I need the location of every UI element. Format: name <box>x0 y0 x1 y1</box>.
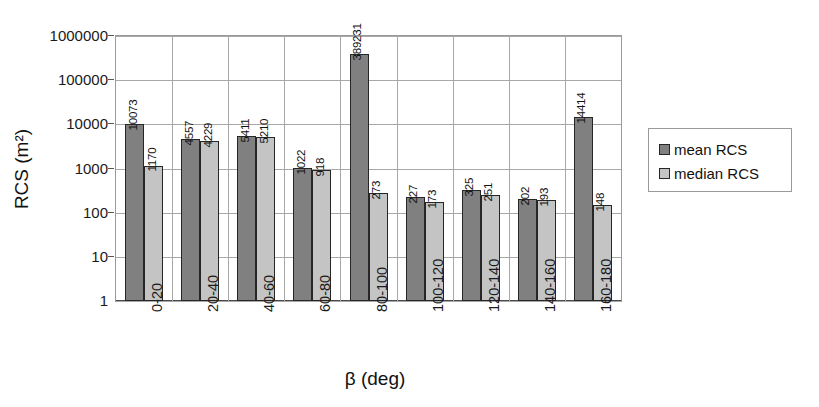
x-axis-tick-label: 20-40 <box>206 275 221 312</box>
legend-swatch-icon <box>659 168 670 179</box>
bar-value-label: 5411 <box>239 119 251 143</box>
y-axis-tick-label: 100 <box>83 204 108 219</box>
bar-median-0-20 <box>144 166 163 302</box>
legend-item: median RCS <box>659 161 791 185</box>
y-axis-tick-mark <box>108 212 114 213</box>
x-axis-tick-label: 60-80 <box>318 275 333 312</box>
y-axis-tick-label: 1000000 <box>50 28 108 43</box>
x-axis-tick-label: 140-160 <box>543 259 558 312</box>
x-axis-tick-label: 120-140 <box>487 259 502 312</box>
y-axis-tick-label: 10000 <box>66 116 108 131</box>
bar-value-label: 389231 <box>352 23 364 60</box>
y-axis-title: RCS (m²) <box>11 109 33 229</box>
gridline-vertical <box>172 36 173 301</box>
bar-value-label: 227 <box>408 185 420 204</box>
bar-value-label: 148 <box>595 193 607 212</box>
bar-value-label: 5210 <box>258 119 270 144</box>
bar-value-label: 173 <box>427 190 439 209</box>
gridline-vertical <box>453 36 454 301</box>
x-axis-tick-label: 40-60 <box>262 275 277 312</box>
bar-mean-0-20 <box>125 124 144 301</box>
y-axis-tick-label: 1 <box>100 293 108 308</box>
bar-value-label: 193 <box>539 188 551 207</box>
bar-value-label: 10073 <box>127 100 139 131</box>
bar-value-label: 251 <box>483 183 495 202</box>
bar-mean-160-180 <box>574 117 593 301</box>
y-axis-tick-label: 100000 <box>58 72 108 87</box>
legend-swatch-icon <box>659 144 670 155</box>
bar-mean-100-120 <box>406 197 425 301</box>
bar-value-label: 4229 <box>202 123 214 148</box>
gridline-vertical <box>565 36 566 301</box>
gridline-vertical <box>284 36 285 301</box>
x-axis-tick-label: 160-180 <box>599 259 614 312</box>
bar-value-label: 14414 <box>576 93 588 124</box>
bar-mean-120-140 <box>462 190 481 301</box>
x-axis-title: β (deg) <box>300 368 450 390</box>
bar-mean-140-160 <box>518 199 537 301</box>
legend-label: median RCS <box>674 165 759 182</box>
y-axis-tick-label: 10 <box>91 248 108 263</box>
bar-value-label: 1170 <box>146 148 158 172</box>
gridline-vertical <box>228 36 229 301</box>
bar-value-label: 273 <box>371 181 383 200</box>
y-axis-tick-mark <box>108 123 114 124</box>
gridline-horizontal <box>116 36 621 37</box>
legend-item: mean RCS <box>659 137 791 161</box>
bar-mean-60-80 <box>293 168 312 301</box>
legend-label: mean RCS <box>674 141 747 158</box>
x-axis-tick-label: 100-120 <box>431 259 446 312</box>
gridline-vertical <box>340 36 341 301</box>
legend: mean RCSmedian RCS <box>648 128 792 192</box>
gridline-vertical <box>509 36 510 301</box>
y-axis-tick-mark <box>108 168 114 169</box>
bar-mean-40-60 <box>237 136 256 301</box>
x-axis-tick-label: 80-100 <box>375 267 390 312</box>
bar-mean-20-40 <box>181 139 200 301</box>
bar-value-label: 202 <box>520 187 532 206</box>
y-axis-tick-mark <box>108 35 114 36</box>
bar-value-label: 4557 <box>183 121 195 146</box>
chart-figure: 1101001000100001000001000000 RCS (m²) β … <box>0 0 819 407</box>
gridline-horizontal <box>116 80 621 81</box>
bar-value-label: 1022 <box>295 150 307 175</box>
y-axis-tick-label: 1000 <box>75 160 108 175</box>
bar-value-label: 918 <box>314 158 326 177</box>
bar-mean-80-100 <box>350 54 369 301</box>
x-axis-tick-label: 0-20 <box>150 283 165 312</box>
y-axis-tick-mark <box>108 256 114 257</box>
gridline-vertical <box>397 36 398 301</box>
bar-value-label: 325 <box>464 178 476 197</box>
y-axis-tick-mark <box>108 79 114 80</box>
